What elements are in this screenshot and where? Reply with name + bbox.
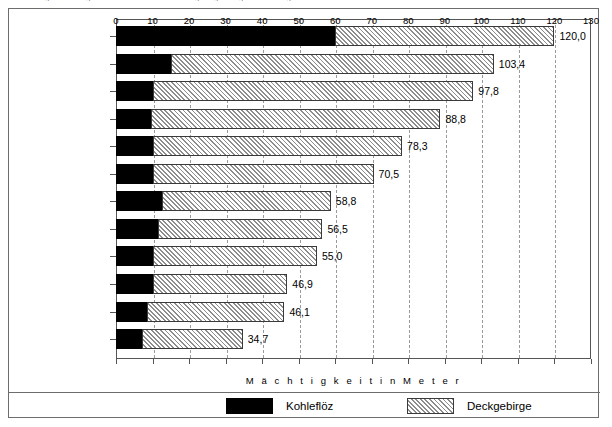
bar-value-label: 88,8	[440, 109, 465, 129]
legend-label-kohlefloz: Kohleflöz	[286, 400, 333, 412]
chart-frame: 0102030405060708090100110120130 M ä c h …	[8, 8, 599, 418]
bar-segment-kohlefloz[interactable]	[116, 302, 147, 322]
bar-segment-deckgebirge[interactable]	[153, 81, 474, 101]
bar-value-label: 70,5	[374, 164, 399, 184]
bar-segment-kohlefloz[interactable]	[116, 81, 153, 101]
x-tick-label-60: 60	[330, 15, 341, 26]
x-tick-label-40: 40	[257, 15, 268, 26]
bar-row: Meuro70,5	[116, 164, 591, 184]
bar-segment-deckgebirge[interactable]	[153, 246, 317, 266]
x-tick-60	[335, 359, 336, 364]
x-tick-label-20: 20	[184, 15, 195, 26]
bar-row: Klettwitz-Nord78,3	[116, 136, 591, 156]
x-tick-label-0: 0	[113, 15, 118, 26]
bar-value-label: 78,3	[402, 136, 427, 156]
chart-area: 0102030405060708090100110120130 M ä c h …	[9, 9, 600, 392]
x-tick-100	[481, 359, 482, 364]
x-tick-label-130: 130	[583, 15, 599, 26]
x-tick-30	[226, 359, 227, 364]
bar-row: Reichwalde58,8	[116, 191, 591, 211]
x-tick-40	[262, 359, 263, 364]
x-tick-80	[408, 359, 409, 364]
bar-row: Nochten97,8	[116, 81, 591, 101]
bar-value-label: 56,5	[322, 219, 347, 239]
x-tick-label-30: 30	[220, 15, 231, 26]
x-tick-10	[153, 359, 154, 364]
x-tick-70	[372, 359, 373, 364]
bar-row: Cottbus-Nord46,1	[116, 302, 591, 322]
bar-segment-kohlefloz[interactable]	[116, 54, 171, 74]
bar-segment-deckgebirge[interactable]	[151, 109, 441, 129]
bar-segment-deckgebirge[interactable]	[147, 302, 284, 322]
figure-caption: Abbildung 9: Mächtigkeit von Kohleflöz u…	[12, 0, 314, 1]
chart-legend: Kohleflöz Deckgebirge	[9, 392, 600, 419]
legend-label-deckgebirge: Deckgebirge	[467, 400, 532, 412]
bar-row: Scheibe46,9	[116, 274, 591, 294]
bar-segment-deckgebirge[interactable]	[142, 329, 243, 349]
x-tick-label-100: 100	[473, 15, 489, 26]
x-tick-label-120: 120	[547, 15, 563, 26]
bar-value-label: 58,8	[331, 191, 356, 211]
bar-row: Welzow-Süd103,4	[116, 54, 591, 74]
x-tick-label-110: 110	[510, 15, 525, 26]
bar-segment-kohlefloz[interactable]	[116, 246, 153, 266]
bar-value-label: 103,4	[494, 54, 525, 74]
x-tick-50	[299, 359, 300, 364]
legend-swatch-deckgebirge-icon	[407, 398, 454, 414]
legend-item-deckgebirge: Deckgebirge	[407, 397, 532, 414]
bar-value-label: 55,0	[317, 246, 342, 266]
bar-segment-kohlefloz[interactable]	[116, 274, 153, 294]
bar-segment-deckgebirge[interactable]	[158, 219, 322, 239]
bar-segment-kohlefloz[interactable]	[116, 164, 153, 184]
bar-segment-deckgebirge[interactable]	[153, 274, 288, 294]
bar-row: Jänschwalde56,5	[116, 219, 591, 239]
x-tick-label-70: 70	[366, 15, 377, 26]
x-tick-20	[189, 359, 190, 364]
bar-value-label: 120,0	[554, 26, 585, 46]
bar-value-label: 34,7	[243, 329, 268, 349]
x-tick-110	[518, 359, 519, 364]
bar-value-label: 46,1	[284, 302, 309, 322]
bar-row: Bärwalde55,0	[116, 246, 591, 266]
bar-row: Berzdorf120,0	[116, 26, 591, 46]
bar-segment-kohlefloz[interactable]	[116, 191, 162, 211]
x-tick-130	[591, 359, 592, 364]
bar-value-label: 46,9	[287, 274, 312, 294]
bar-segment-kohlefloz[interactable]	[116, 136, 153, 156]
x-tick-label-10: 10	[147, 15, 158, 26]
bar-row: Seese-Ost34,7	[116, 329, 591, 349]
x-axis-title: M ä c h t i g k e i t i n M e t e r	[116, 375, 591, 386]
x-tick-label-50: 50	[293, 15, 304, 26]
bar-segment-kohlefloz[interactable]	[116, 329, 142, 349]
bar-row: Greifenhain88,8	[116, 109, 591, 129]
x-tick-label-80: 80	[403, 15, 414, 26]
legend-swatch-kohlefloz-icon	[226, 398, 273, 414]
bar-segment-deckgebirge[interactable]	[335, 26, 554, 46]
bar-segment-deckgebirge[interactable]	[153, 164, 374, 184]
bar-segment-deckgebirge[interactable]	[162, 191, 331, 211]
bar-segment-kohlefloz[interactable]	[116, 219, 158, 239]
x-axis	[116, 358, 591, 359]
bar-segment-kohlefloz[interactable]	[116, 109, 151, 129]
x-tick-120	[554, 359, 555, 364]
bar-segment-deckgebirge[interactable]	[171, 54, 494, 74]
legend-item-kohlefloz: Kohleflöz	[226, 397, 333, 414]
bar-segment-kohlefloz[interactable]	[116, 26, 335, 46]
x-tick-90	[445, 359, 446, 364]
bar-value-label: 97,8	[473, 81, 498, 101]
bar-segment-deckgebirge[interactable]	[153, 136, 403, 156]
x-tick-0	[116, 359, 117, 364]
x-tick-label-90: 90	[440, 15, 451, 26]
